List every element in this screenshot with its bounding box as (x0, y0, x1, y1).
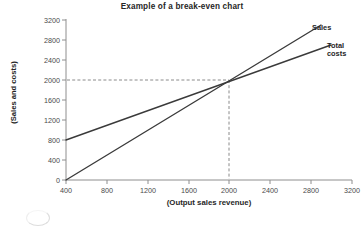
x-tick-label: 400 (50, 187, 82, 194)
x-tick-label: 2400 (254, 187, 286, 194)
y-tick-label: 400 (20, 157, 60, 164)
series-label-sales: Sales (312, 24, 331, 32)
y-tick-label: 1200 (20, 117, 60, 124)
series-line-total-costs (66, 45, 331, 140)
x-tick-marks (66, 180, 352, 184)
x-tick-label: 1200 (132, 187, 164, 194)
series-line-sales (66, 25, 321, 180)
series-label-total-costs: Total costs (327, 42, 346, 59)
x-tick-label: 3200 (336, 187, 364, 194)
y-tick-marks (62, 20, 66, 180)
y-tick-label: 2800 (20, 37, 60, 44)
break-even-chart: Example of a break-even chart (0, 0, 364, 226)
scan-artifact (26, 210, 50, 226)
y-tick-label: 3200 (20, 17, 60, 24)
y-tick-label: 2000 (20, 77, 60, 84)
y-tick-label: 1600 (20, 97, 60, 104)
y-tick-label: 2400 (20, 57, 60, 64)
y-tick-label: 800 (20, 137, 60, 144)
y-axis-title: (Sales and costs) (9, 28, 18, 158)
x-tick-label: 2800 (295, 187, 327, 194)
y-tick-label: 0 (20, 177, 60, 184)
x-tick-label: 2000 (213, 187, 245, 194)
x-tick-label: 800 (91, 187, 123, 194)
x-tick-label: 1600 (173, 187, 205, 194)
x-axis-title: (Output sales revenue) (66, 198, 352, 207)
